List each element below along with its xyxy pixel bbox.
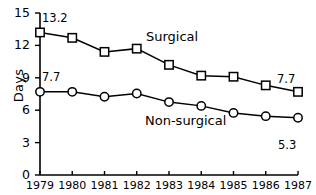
value-label-non-surgical-start: 7.7 xyxy=(42,72,60,83)
y-tick-label: 3 xyxy=(6,137,30,149)
data-point-marker xyxy=(294,88,302,96)
data-point-marker xyxy=(36,28,44,36)
data-point-marker xyxy=(100,93,108,101)
data-point-marker xyxy=(100,48,108,56)
data-point-marker xyxy=(229,109,237,117)
y-tick-label: 6 xyxy=(6,104,30,116)
data-point-marker xyxy=(197,102,205,110)
series-label-surgical: Surgical xyxy=(146,29,198,44)
data-point-marker xyxy=(133,89,141,97)
data-point-marker xyxy=(197,71,205,79)
data-point-marker xyxy=(262,112,270,120)
x-tick-label: 1987 xyxy=(277,180,316,191)
data-point-marker xyxy=(68,34,76,42)
data-point-marker xyxy=(133,44,141,52)
y-tick-label: 9 xyxy=(6,72,30,84)
value-label-non-surgical-end: 5.3 xyxy=(278,140,296,151)
data-point-marker xyxy=(294,114,302,122)
line-chart: Days 03691215 19791980198119821983198419… xyxy=(0,0,316,195)
data-point-marker xyxy=(262,81,270,89)
value-label-surgical-start: 13.2 xyxy=(42,13,68,24)
data-point-marker xyxy=(165,61,173,69)
series-label-non-surgical: Non-surgical xyxy=(145,113,226,128)
data-point-marker xyxy=(229,73,237,81)
value-label-surgical-end: 7.7 xyxy=(277,74,295,85)
data-point-marker xyxy=(36,88,44,96)
data-point-marker xyxy=(165,98,173,106)
y-tick-label: 15 xyxy=(6,7,30,19)
y-tick-label: 12 xyxy=(6,39,30,51)
data-point-marker xyxy=(68,88,76,96)
